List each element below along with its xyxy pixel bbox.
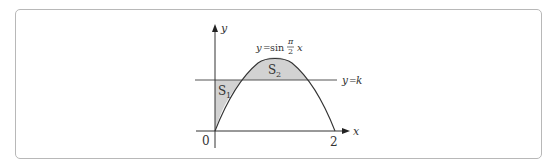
x-tick-label-2: 2: [330, 135, 338, 149]
y-axis-label: y: [220, 22, 228, 35]
function-graph: y x 0 2 y = sin π 2 x y = k S 1 S 2: [0, 0, 550, 167]
svg-text:x: x: [297, 42, 303, 53]
svg-text:2: 2: [288, 47, 293, 56]
x-axis-arrow-icon: [342, 128, 350, 134]
svg-text:sin: sin: [270, 42, 284, 53]
line-label: y = k: [341, 74, 362, 86]
svg-text:S: S: [218, 84, 226, 98]
y-axis-arrow-icon: [212, 24, 218, 32]
svg-text:1: 1: [226, 91, 231, 100]
function-label: y = sin π 2 x: [255, 37, 303, 56]
x-axis-label: x: [353, 125, 360, 138]
svg-text:y: y: [341, 74, 349, 86]
svg-text:k: k: [356, 74, 362, 86]
svg-text:2: 2: [276, 70, 281, 79]
svg-text:S: S: [268, 63, 276, 77]
origin-label: 0: [202, 134, 210, 148]
svg-text:π: π: [287, 37, 294, 46]
svg-text:y: y: [255, 42, 262, 53]
